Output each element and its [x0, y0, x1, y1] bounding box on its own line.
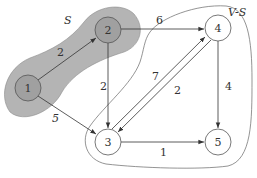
svg-text:5: 5 — [215, 136, 222, 149]
weight-2-4: 6 — [156, 14, 163, 27]
svg-text:4: 4 — [215, 22, 222, 35]
node-2: 2 — [95, 17, 121, 43]
region-v-minus-s-label: V-S — [228, 6, 247, 19]
svg-text:2: 2 — [105, 24, 112, 37]
weight-1-3: 5 — [52, 112, 59, 125]
edge-4-3 — [118, 40, 211, 132]
node-3: 3 — [95, 129, 121, 155]
weight-3-5: 1 — [160, 146, 167, 159]
graph-diagram: 1 2 3 4 5 S V-S 2 5 6 2 7 2 4 1 — [0, 0, 257, 178]
svg-text:3: 3 — [105, 136, 112, 149]
region-s-label: S — [64, 14, 72, 27]
svg-text:1: 1 — [25, 82, 32, 95]
node-5: 5 — [205, 129, 231, 155]
weight-2-3: 2 — [100, 80, 107, 93]
weight-4-5: 4 — [225, 80, 232, 93]
weight-1-2: 2 — [57, 46, 64, 59]
node-1: 1 — [15, 75, 41, 101]
weight-3-4: 7 — [152, 70, 159, 83]
weight-4-3: 2 — [174, 84, 181, 97]
edge-1-3 — [38, 96, 96, 134]
graph-svg: 1 2 3 4 5 S V-S 2 5 6 2 7 2 4 1 — [0, 0, 257, 178]
